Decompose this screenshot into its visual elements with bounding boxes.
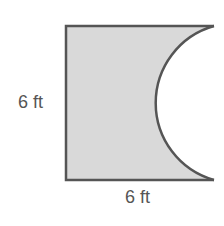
shaded-region xyxy=(66,26,214,180)
geometry-figure: 6 ft 6 ft xyxy=(0,0,224,226)
bottom-side-length-label: 6 ft xyxy=(125,188,150,206)
left-side-length-label: 6 ft xyxy=(18,93,43,111)
shaded-region-diagram xyxy=(0,0,224,226)
